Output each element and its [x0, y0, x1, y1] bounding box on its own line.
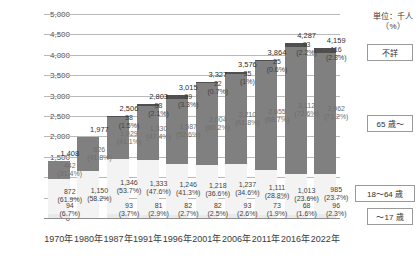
value-label: 826(41.8%): [71, 146, 127, 162]
value-label: 442(31.4%): [42, 162, 98, 178]
legend-item-unknown: 不詳: [367, 44, 413, 61]
stacked-bar-chart: 05001,0001,5002,0002,5003,0003,5004,0004…: [0, 0, 419, 258]
value-label-percent: (2.3%): [308, 210, 364, 218]
value-label: 25(0.6%): [249, 58, 305, 74]
value-label-percent: (71.2%): [308, 113, 364, 121]
value-label: 96(2.3%): [308, 202, 364, 218]
value-label-percent: (31.4%): [42, 170, 98, 178]
value-label-number: 2,962: [308, 105, 364, 113]
value-label-number: 94: [42, 202, 98, 210]
value-label-number: 442: [42, 162, 98, 170]
value-label-percent: (3.3%): [160, 101, 216, 109]
legend-item-age17: ～17 歳: [367, 208, 413, 225]
value-label: 4,159: [308, 37, 364, 45]
unit-note-line1: 単位：千人: [373, 12, 413, 22]
value-label-percent: (6.7%): [42, 210, 98, 218]
value-label-percent: (2.8%): [308, 54, 364, 62]
value-label-percent: (52.6%): [160, 131, 216, 139]
unit-note: 単位：千人 （%）: [373, 12, 413, 32]
x-axis-tick-labels: 1970年1980年1987年1991年1996年2001年2006年2011年…: [44, 232, 340, 246]
value-label-number: 25: [249, 58, 305, 66]
value-label: 2,962(71.2%): [308, 105, 364, 121]
plot-area: 1,408442(31.4%)872(61.9%)94(6.7%)1,97782…: [44, 14, 340, 218]
value-label-number: 96: [308, 202, 364, 210]
value-label-percent: (0.6%): [249, 66, 305, 74]
value-label: 116(2.8%): [308, 46, 364, 62]
value-label-number: 4,159: [308, 37, 364, 45]
legend-item-age65: 65 歳～: [367, 115, 413, 132]
legend-item-age1864: 18～64 歳: [355, 185, 415, 202]
value-label: 94(6.7%): [42, 202, 98, 218]
value-label-percent: (0.7%): [190, 88, 246, 96]
gridline: [44, 218, 340, 219]
value-label-number: 116: [308, 46, 364, 54]
unit-note-line2: （%）: [373, 22, 413, 32]
value-label-percent: (1%): [219, 78, 275, 86]
value-label-percent: (41.8%): [71, 154, 127, 162]
x-axis-tick-label: 2022年: [303, 232, 347, 245]
value-label-percent: (2.1%): [131, 110, 187, 118]
value-label-number: 826: [71, 146, 127, 154]
